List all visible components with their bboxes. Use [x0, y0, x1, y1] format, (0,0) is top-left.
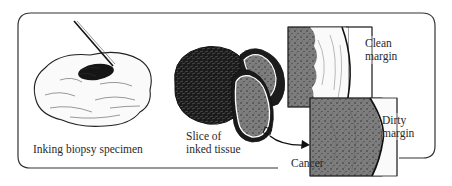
dirty-margin-label-line2: margin — [382, 127, 414, 140]
biopsy-specimen-illustration — [34, 21, 151, 126]
clean-margin-panel — [288, 27, 372, 107]
caption-slice-line2: inked tissue — [186, 143, 241, 156]
diagram-artwork — [0, 0, 452, 186]
dirty-margin-label-line1: Dirty — [382, 114, 406, 127]
caption-slice-line1: Slice of — [186, 130, 221, 143]
clean-margin-label-line2: margin — [365, 50, 397, 63]
cancer-label: Cancer — [291, 157, 324, 170]
clean-margin-label-line1: Clean — [365, 37, 392, 50]
caption-inking-biopsy: Inking biopsy specimen — [33, 143, 143, 156]
